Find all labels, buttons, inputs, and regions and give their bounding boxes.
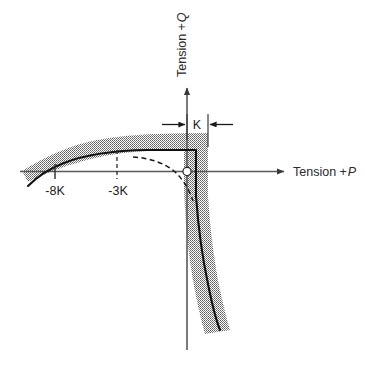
origin-marker — [183, 167, 191, 175]
diagram-canvas: K -8K -3K Tension +P Tension +Q — [0, 0, 365, 365]
x-tick-label-minus-3k: -3K — [108, 184, 128, 198]
y-axis-label-prefix: Tension + — [175, 23, 189, 77]
failure-envelope-diagram: K -8K -3K Tension +P Tension +Q — [0, 0, 365, 365]
axes-group — [20, 88, 284, 350]
k-dimension-label: K — [193, 118, 202, 132]
x-tick-label-minus-8k: -8K — [45, 184, 65, 198]
y-axis-label-variable: Q — [175, 12, 189, 22]
y-axis-label: Tension +Q — [175, 12, 189, 77]
x-axis-label-prefix: Tension + — [293, 165, 347, 179]
x-axis-label-variable: P — [348, 165, 357, 179]
x-axis-label: Tension +P — [293, 165, 357, 179]
